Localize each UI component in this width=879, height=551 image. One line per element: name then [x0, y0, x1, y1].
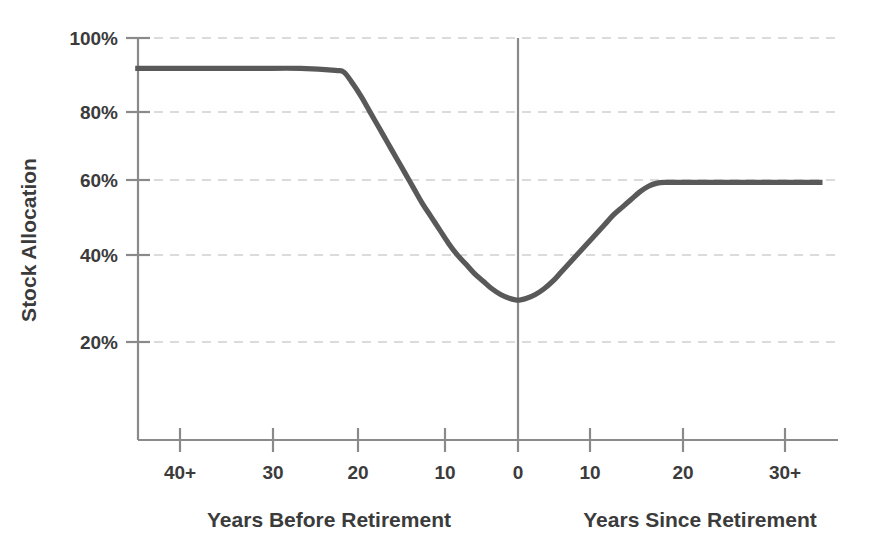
x-tick-label-20-after: 20	[672, 462, 693, 483]
x-tick-label-20-before: 20	[347, 462, 368, 483]
x-axis-title-since-retirement: Years Since Retirement	[583, 508, 816, 531]
y-tick-label-80: 80%	[80, 102, 118, 123]
stock-allocation-curve	[135, 68, 822, 300]
chart-container: 100% 80% 60% 40% 20% 40+ 30 20 10 0 10 2…	[0, 0, 879, 551]
x-tick-label-30-before: 30	[262, 462, 283, 483]
x-tick-label-30-plus: 30+	[769, 462, 801, 483]
y-tick-label-100: 100%	[69, 28, 118, 49]
x-axis-title-before-retirement: Years Before Retirement	[207, 508, 451, 531]
y-tick-label-20: 20%	[80, 332, 118, 353]
x-tick-label-40-plus: 40+	[164, 462, 196, 483]
x-tick-label-10-after: 10	[579, 462, 600, 483]
stock-allocation-line-chart: 100% 80% 60% 40% 20% 40+ 30 20 10 0 10 2…	[0, 0, 879, 551]
y-axis-title: Stock Allocation	[17, 158, 40, 322]
x-tick-label-zero: 0	[513, 462, 524, 483]
y-tick-label-60: 60%	[80, 170, 118, 191]
y-axis-tick-labels: 100% 80% 60% 40% 20%	[69, 28, 118, 353]
gridlines	[138, 38, 838, 342]
x-axis-tick-labels: 40+ 30 20 10 0 10 20 30+	[164, 462, 801, 483]
x-tick-label-10-before: 10	[434, 462, 455, 483]
y-tick-label-40: 40%	[80, 245, 118, 266]
axes	[138, 38, 838, 440]
